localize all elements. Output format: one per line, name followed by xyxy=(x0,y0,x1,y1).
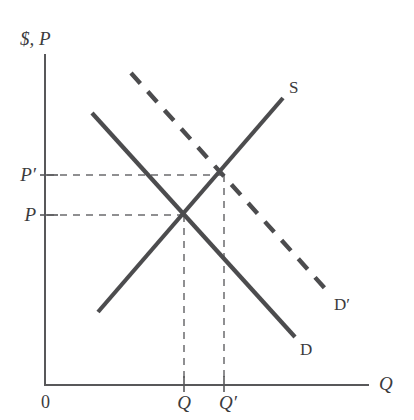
tick-marks-group xyxy=(40,175,224,392)
chart-canvas: $, P Q 0 P′ P Q Q′ S D D′ xyxy=(0,0,414,420)
origin-label: 0 xyxy=(41,392,50,412)
y-axis-label: $, P xyxy=(20,28,51,49)
demand-curve-label: D xyxy=(300,340,312,359)
supply-curve-label: S xyxy=(289,78,298,97)
price-p-prime-label: P′ xyxy=(19,164,37,185)
supply-demand-figure: $, P Q 0 P′ P Q Q′ S D D′ xyxy=(0,0,414,420)
x-axis-label: Q xyxy=(379,373,393,394)
quantity-q-label: Q xyxy=(177,392,191,413)
demand-shifted-curve xyxy=(131,73,330,294)
quantity-q-prime-label: Q′ xyxy=(219,392,238,413)
demand-curve xyxy=(92,113,295,337)
price-p-label: P xyxy=(23,204,36,225)
labels-group: $, P Q 0 P′ P Q Q′ S D D′ xyxy=(19,28,393,413)
axes-group xyxy=(45,55,368,385)
curves-group xyxy=(92,73,330,337)
demand-shifted-curve-label: D′ xyxy=(334,295,350,314)
supply-curve xyxy=(98,98,283,312)
guide-lines-group xyxy=(47,175,224,383)
